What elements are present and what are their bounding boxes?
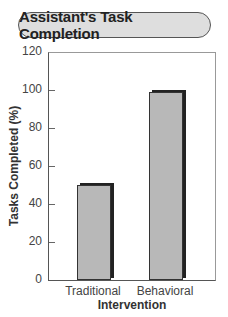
y-tick-label: 20 <box>18 234 42 248</box>
y-tick-label: 80 <box>18 120 42 134</box>
y-tick-label: 40 <box>18 196 42 210</box>
chart-title: Assistant's Task Completion <box>18 12 211 38</box>
y-tick-label: 60 <box>18 158 42 172</box>
y-tick-label: 120 <box>18 44 42 58</box>
bar-behavioral <box>149 92 183 280</box>
plot-area <box>48 52 216 281</box>
x-tick-label-behavioral: Behavioral <box>125 284 205 298</box>
y-tick-label: 100 <box>18 82 42 96</box>
x-tick-label-traditional: Traditional <box>53 284 133 298</box>
y-tick-label: 0 <box>18 272 42 286</box>
bar-traditional <box>77 185 111 280</box>
x-axis-title: Intervention <box>48 298 216 312</box>
